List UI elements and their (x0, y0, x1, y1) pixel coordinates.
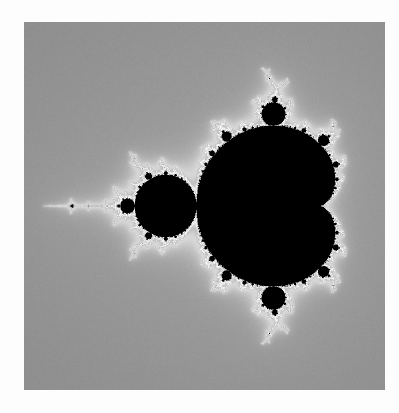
figure-caption (0, 393, 399, 413)
mandelbrot-image-panel (24, 22, 385, 390)
figure-root (0, 0, 399, 413)
mandelbrot-canvas (24, 22, 385, 390)
